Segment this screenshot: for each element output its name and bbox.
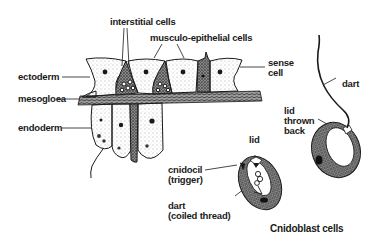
- label-sense-cell-line2: cell: [268, 68, 294, 78]
- label-musculo-epithelial-cells: musculo-epithelial cells: [150, 33, 252, 43]
- ectoderm-layer: [82, 52, 242, 97]
- cnidoblast-loaded: [230, 149, 290, 217]
- cnidarian-cells-diagram: interstitial cells musculo-epithelial ce…: [0, 0, 375, 236]
- label-cnidocil-trigger: cnidocil (trigger): [168, 165, 203, 185]
- label-mesogloea: mesogloea: [18, 94, 66, 104]
- label-ectoderm: ectoderm: [18, 72, 59, 82]
- label-interstitial-cells: interstitial cells: [110, 17, 176, 27]
- label-lid: lid: [249, 135, 259, 145]
- label-cnidocil-line2: (trigger): [168, 175, 203, 185]
- label-lid-thrown-back-line3: back: [284, 126, 314, 136]
- label-lid-thrown-back: lid thrown back: [284, 106, 314, 136]
- label-sense-cell: sense cell: [268, 58, 294, 78]
- label-dart-coiled-thread: dart (coiled thread): [168, 201, 230, 221]
- endoderm-layer: [91, 103, 163, 178]
- label-endoderm: endoderm: [18, 123, 62, 133]
- label-dart-line2: (coiled thread): [168, 211, 230, 221]
- diagram-title: Cnidoblast cells: [270, 224, 344, 234]
- label-dart-discharged: dart: [342, 79, 359, 89]
